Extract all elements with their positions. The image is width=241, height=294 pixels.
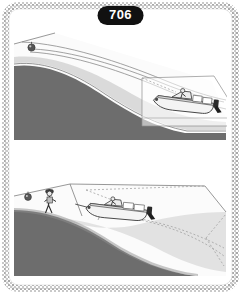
- figure-illustration: [0, 0, 241, 294]
- mooring-buoy-icon: [25, 194, 32, 201]
- lower-panel: [14, 184, 226, 276]
- boat-deck-panel-1: [123, 202, 133, 209]
- boat-deck-panel-1: [193, 95, 203, 102]
- mooring-buoy-icon: [28, 44, 35, 51]
- boat-deck-panel-2: [134, 204, 144, 211]
- boat-deck-panel-2: [202, 97, 212, 104]
- upper-panel: [14, 33, 229, 140]
- figure-container: 706: [0, 0, 241, 294]
- mooring-buoy-highlight: [29, 45, 31, 47]
- mooring-buoy-highlight: [26, 195, 28, 197]
